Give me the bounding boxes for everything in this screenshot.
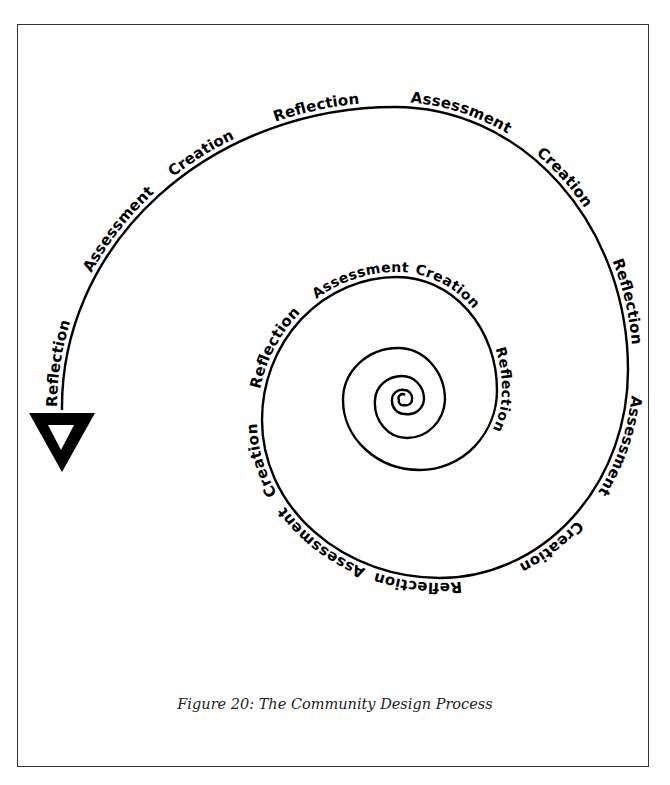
label-inner-assessment: Assessment — [309, 259, 410, 301]
label-outer-creation-2: Creation — [533, 143, 596, 210]
spiral-diagram: Reflection Assessment Creation Reflectio… — [0, 0, 670, 785]
label-outer-assessment-2: Assessment — [410, 89, 515, 138]
label-inner-creation: Creation — [414, 261, 483, 311]
label-outer-reflection-3: Reflection — [609, 256, 646, 345]
figure-caption: Figure 20: The Community Design Process — [0, 696, 670, 712]
label-middle-creation-1: Creation — [517, 517, 587, 577]
label-outer-assessment-1: Assessment — [79, 182, 157, 275]
label-outer-reflection-2: Reflection — [271, 90, 360, 126]
label-outer-creation-1: Creation — [165, 126, 237, 180]
spiral-line — [62, 107, 628, 578]
label-middle-assessment-1: Assessment — [273, 504, 367, 582]
label-outer-reflection-1: Reflection — [43, 318, 74, 408]
label-outer-assessment-3: Assessment — [595, 395, 646, 500]
label-middle-reflection-2: Reflection — [246, 303, 303, 390]
arrowhead-icon — [29, 413, 95, 472]
label-middle-reflection-1: Reflection — [371, 569, 462, 597]
label-middle-creation-2: Creation — [243, 423, 280, 501]
